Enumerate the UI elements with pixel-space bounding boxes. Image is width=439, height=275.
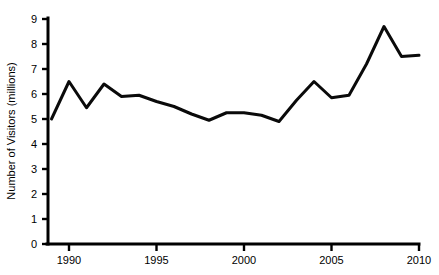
x-tick-label: 2010 — [407, 254, 431, 266]
x-tick-label: 1990 — [57, 254, 81, 266]
y-tick-label: 0 — [31, 238, 37, 250]
y-tick-label: 6 — [31, 88, 37, 100]
y-axis-title: Number of Visitors (millions) — [5, 62, 17, 199]
y-tick-label: 5 — [31, 113, 37, 125]
y-tick-label: 2 — [31, 188, 37, 200]
y-tick-label: 4 — [31, 138, 37, 150]
y-axis-ticks: 0123456789 — [31, 13, 47, 250]
chart-plot-area: 0123456789 19901995200020052010 Number o… — [0, 0, 439, 275]
y-tick-label: 7 — [31, 63, 37, 75]
visitors-line-chart: 0123456789 19901995200020052010 Number o… — [0, 0, 439, 275]
y-tick-label: 9 — [31, 13, 37, 25]
x-tick-label: 2005 — [319, 254, 343, 266]
y-tick-label: 8 — [31, 38, 37, 50]
x-tick-label: 2000 — [232, 254, 256, 266]
x-axis-ticks: 19901995200020052010 — [57, 245, 431, 266]
visitors-data-line — [52, 27, 420, 122]
x-tick-label: 1995 — [144, 254, 168, 266]
y-tick-label: 1 — [31, 213, 37, 225]
y-tick-label: 3 — [31, 163, 37, 175]
